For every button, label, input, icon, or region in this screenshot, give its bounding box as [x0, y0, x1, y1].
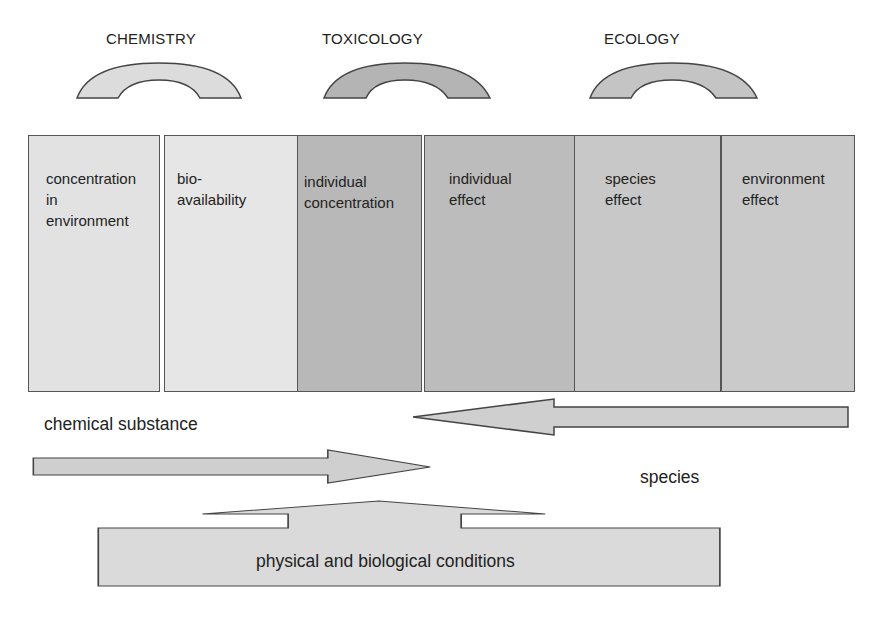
arrow-left-icon — [413, 399, 848, 435]
column-individual-concentration: individual concentration — [297, 135, 422, 392]
toxicology-arc-icon — [324, 63, 490, 98]
column-label: individual effect — [449, 168, 512, 210]
arrow-right-icon — [33, 450, 430, 483]
column-individual-effect: individual effect — [424, 135, 575, 392]
column-label: environment effect — [742, 168, 825, 210]
conditions-arrow-icon — [98, 501, 720, 586]
column-label: individual concentration — [304, 171, 394, 213]
column-bioavailability: bio- availability — [164, 135, 298, 392]
label-physical-biological-conditions: physical and biological conditions — [256, 551, 515, 572]
label-chemical-substance: chemical substance — [44, 414, 198, 435]
column-label: bio- availability — [177, 168, 246, 210]
column-concentration-in-environment: concentration in environment — [28, 135, 160, 392]
column-species-effect: species effect — [575, 135, 721, 392]
chemistry-arc-icon — [77, 63, 241, 98]
ecology-arc-icon — [590, 63, 757, 98]
column-label: concentration in environment — [46, 168, 136, 231]
label-species: species — [640, 467, 699, 488]
column-label: species effect — [605, 168, 656, 210]
column-environment-effect: environment effect — [721, 135, 855, 392]
